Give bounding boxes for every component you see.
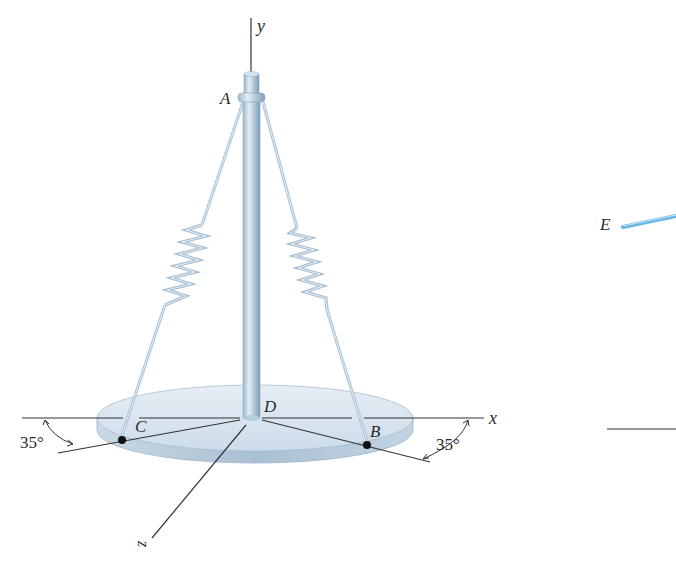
- point-c-dot: [118, 436, 126, 444]
- label-point-e: E: [599, 215, 611, 234]
- vertical-pole: [238, 72, 265, 422]
- spring-right: [290, 228, 327, 310]
- label-x-axis: x: [488, 408, 497, 428]
- label-z-axis: z: [135, 540, 152, 548]
- spring-pole-diagram: y A D C B x z E 35° 35°: [0, 0, 676, 575]
- label-point-d: D: [263, 397, 277, 416]
- rod-e: [623, 215, 676, 227]
- point-b-dot: [363, 441, 371, 449]
- label-point-a: A: [219, 89, 231, 108]
- angle-arc-left: [43, 420, 73, 446]
- angle-label-left: 35°: [20, 433, 44, 452]
- label-y-axis: y: [255, 16, 265, 36]
- angle-label-right: 35°: [436, 435, 460, 454]
- label-point-b: B: [370, 422, 381, 441]
- label-point-c: C: [135, 417, 147, 436]
- spring-left: [165, 225, 206, 305]
